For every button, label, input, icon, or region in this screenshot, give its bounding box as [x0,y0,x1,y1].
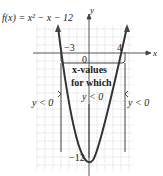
left-intercept-label: −3 [64,43,75,53]
annotation-line3: y < 0 [82,92,103,102]
vertex-label: −12 [69,153,85,163]
function-label: f(x) = x² − x − 12 [2,13,73,23]
left-side-label: y < 0 [32,98,53,108]
annotation-line2: for which [71,78,112,88]
graph-canvas [0,0,163,176]
right-side-label: y < 0 [128,98,149,108]
x-axis-label: x [153,49,157,58]
right-intercept-label: 4 [117,43,122,53]
y-axis-label: y [90,6,94,15]
annotation-line1: x-values [72,65,107,75]
